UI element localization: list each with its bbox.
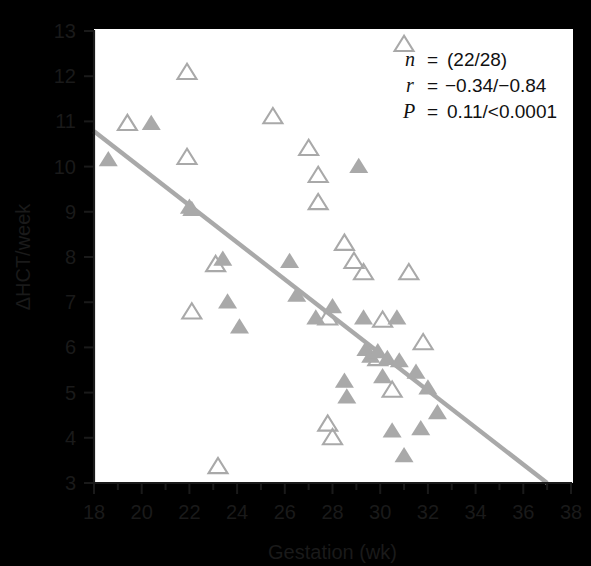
x-tick-label-22: 22 [178, 501, 200, 523]
y-tick-label-7: 7 [65, 291, 76, 313]
x-tick-label-34: 34 [464, 501, 486, 523]
p-symbol: P [402, 100, 415, 122]
n-symbol: n [405, 48, 415, 70]
x-tick-label-32: 32 [417, 501, 439, 523]
y-tick-label-5: 5 [65, 382, 76, 404]
x-tick-label-18: 18 [83, 501, 105, 523]
p-equals: = [427, 101, 438, 122]
x-tick-label-30: 30 [369, 501, 391, 523]
x-tick-label-20: 20 [131, 501, 153, 523]
x-tick-label-26: 26 [274, 501, 296, 523]
p-value: 0.11/<0.0001 [447, 101, 557, 122]
plot-canvas: 3456789101112131820222426283032343638 Ge… [0, 0, 591, 566]
r-value: −0.34/−0.84 [445, 75, 547, 96]
plot-area-background [94, 29, 573, 483]
x-tick-label-36: 36 [512, 501, 534, 523]
y-tick-label-3: 3 [65, 472, 76, 494]
y-tick-label-6: 6 [65, 336, 76, 358]
r-equals: = [427, 75, 438, 96]
scatter-plot-figure: 3456789101112131820222426283032343638 Ge… [0, 0, 591, 566]
y-axis-title: ΔHCT/week [12, 203, 34, 311]
x-tick-label-24: 24 [226, 501, 248, 523]
y-tick-label-11: 11 [55, 110, 76, 132]
x-axis-title: Gestation (wk) [268, 541, 397, 563]
n-value: (22/28) [447, 49, 507, 70]
y-tick-label-8: 8 [65, 246, 76, 268]
y-tick-label-10: 10 [54, 156, 76, 178]
x-tick-label-28: 28 [321, 501, 343, 523]
y-tick-label-13: 13 [54, 20, 76, 42]
r-symbol: r [406, 74, 414, 96]
y-tick-label-9: 9 [65, 201, 76, 223]
y-tick-label-12: 12 [54, 65, 76, 87]
n-equals: = [427, 49, 438, 70]
y-tick-label-4: 4 [65, 427, 76, 449]
x-tick-label-38: 38 [560, 501, 582, 523]
